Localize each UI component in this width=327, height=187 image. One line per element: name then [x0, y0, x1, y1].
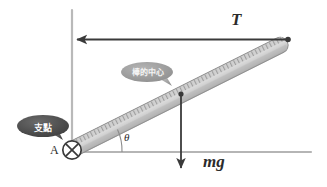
callout-fulcrum-text: 支點: [22, 121, 64, 134]
pivot-symbol: [63, 141, 81, 159]
rod: [65, 34, 291, 158]
physics-diagram: T mg A θ 支點 棒的中心: [0, 0, 327, 187]
callout-rod-center-text: 棒的中心: [124, 66, 171, 77]
weight-label: mg: [203, 152, 225, 172]
diagram-canvas: [0, 0, 327, 187]
angle-label: θ: [124, 131, 129, 143]
tension-label: T: [231, 10, 241, 30]
pivot-label: A: [50, 143, 59, 158]
